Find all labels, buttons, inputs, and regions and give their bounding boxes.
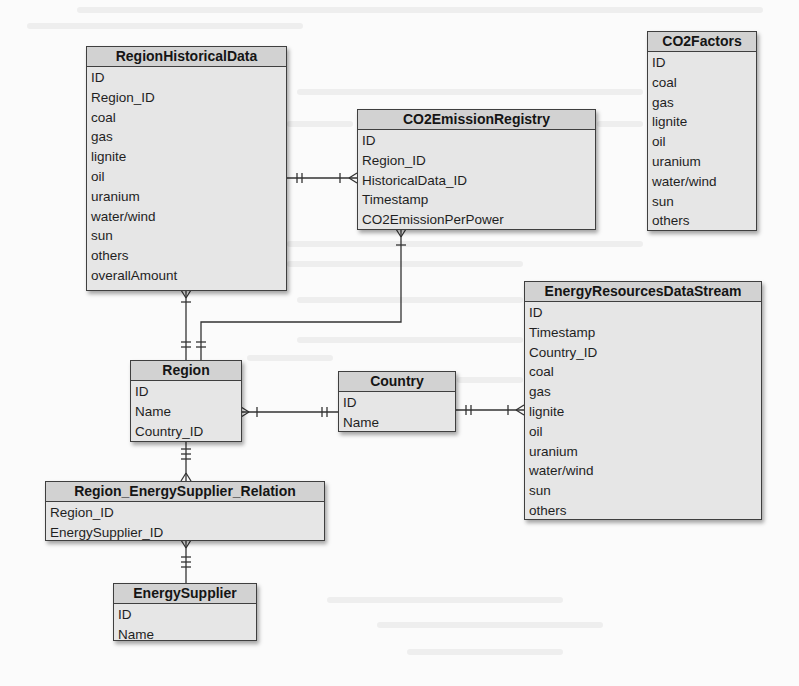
attribute-list: ID Name Country_ID [131,381,241,441]
attribute: gas [529,382,761,402]
entity-co2-emission-registry[interactable]: CO2EmissionRegistry ID Region_ID Histori… [357,109,596,230]
entity-region-historical-data[interactable]: RegionHistoricalData ID Region_ID coal g… [86,46,287,291]
entity-country[interactable]: Country ID Name [338,371,456,432]
attribute: Country_ID [529,343,761,363]
attribute: coal [529,362,761,382]
entity-title: Country [339,372,455,392]
attribute: sun [529,481,761,501]
attribute: sun [91,226,286,246]
attribute: ID [652,53,756,73]
attribute: lignite [91,147,286,167]
entity-title: CO2EmissionRegistry [358,110,595,130]
attribute: water/wind [529,461,761,481]
attribute-list: ID Region_ID HistoricalData_ID Timestamp… [358,130,595,230]
entity-title: EnergySupplier [114,584,256,604]
attribute: lignite [652,112,756,132]
attribute: coal [91,108,286,128]
attribute-list: ID coal gas lignite oil uranium water/wi… [648,52,756,231]
attribute: others [652,211,756,231]
entity-title: EnergyResourcesDataStream [525,282,761,302]
attribute: Timestamp [529,323,761,343]
attribute-list: ID Name [339,392,455,433]
attribute: Name [135,402,241,422]
attribute: water/wind [91,207,286,227]
attribute: HistoricalData_ID [362,171,595,191]
attribute-list: ID Region_ID coal gas lignite oil uraniu… [87,67,286,286]
entity-region[interactable]: Region ID Name Country_ID [130,360,242,442]
attribute: ID [135,382,241,402]
attribute: Region_ID [50,503,324,523]
entity-title: Region [131,361,241,381]
attribute: Region_ID [362,151,595,171]
entity-region-energysupplier-relation[interactable]: Region_EnergySupplier_Relation Region_ID… [45,481,325,541]
attribute: others [529,501,761,521]
attribute: uranium [652,152,756,172]
attribute-list: ID Name [114,604,256,645]
entity-co2-factors[interactable]: CO2Factors ID coal gas lignite oil urani… [647,31,757,231]
entity-title: CO2Factors [648,32,756,52]
attribute: coal [652,73,756,93]
attribute: ID [362,131,595,151]
attribute: uranium [529,442,761,462]
attribute: ID [343,393,455,413]
attribute: lignite [529,402,761,422]
attribute: gas [91,127,286,147]
attribute: ID [529,303,761,323]
entity-title: Region_EnergySupplier_Relation [46,482,324,502]
attribute: Name [118,625,256,645]
attribute: Country_ID [135,422,241,442]
attribute-list: Region_ID EnergySupplier_ID [46,502,324,543]
entity-energy-resources-data-stream[interactable]: EnergyResourcesDataStream ID Timestamp C… [524,281,762,520]
attribute: others [91,246,286,266]
attribute: oil [652,132,756,152]
entity-title: RegionHistoricalData [87,47,286,67]
attribute: uranium [91,187,286,207]
attribute: sun [652,192,756,212]
attribute: EnergySupplier_ID [50,523,324,543]
attribute: Name [343,413,455,433]
attribute: overallAmount [91,266,286,286]
attribute: Timestamp [362,190,595,210]
attribute: gas [652,93,756,113]
attribute: Region_ID [91,88,286,108]
attribute: CO2EmissionPerPower [362,210,595,230]
attribute: oil [529,422,761,442]
attribute: ID [118,605,256,625]
attribute: oil [91,167,286,187]
attribute: water/wind [652,172,756,192]
attribute: ID [91,68,286,88]
attribute-list: ID Timestamp Country_ID coal gas lignite… [525,302,761,521]
entity-energy-supplier[interactable]: EnergySupplier ID Name [113,583,257,641]
